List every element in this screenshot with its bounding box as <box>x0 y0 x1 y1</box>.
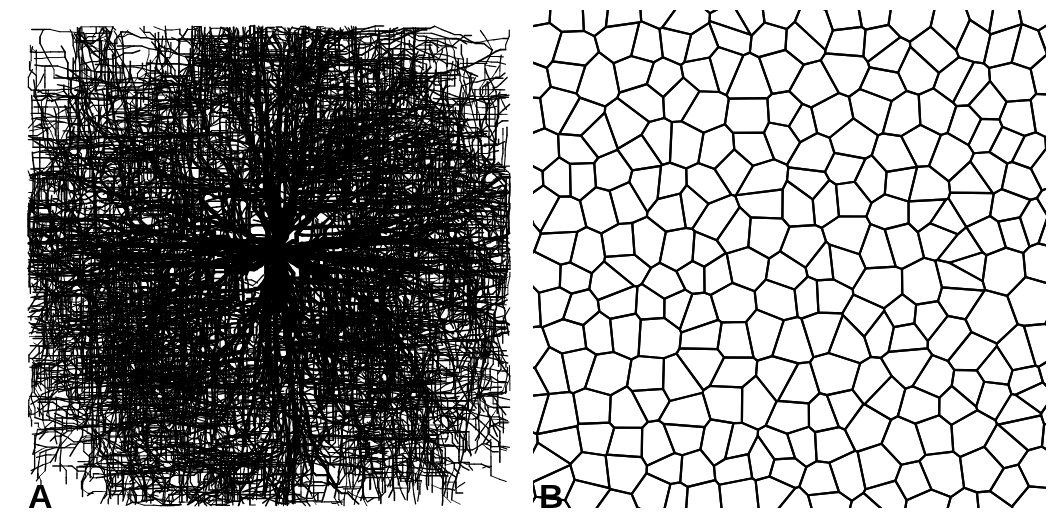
voronoi-foam-image <box>512 0 1061 530</box>
figure-container: A B <box>0 0 1061 530</box>
panel-b-label: B <box>539 479 564 513</box>
dla-cluster-image <box>0 0 512 530</box>
panel-a-label: A <box>28 479 53 513</box>
panel-b: B <box>512 0 1061 530</box>
panel-a: A <box>0 0 512 530</box>
